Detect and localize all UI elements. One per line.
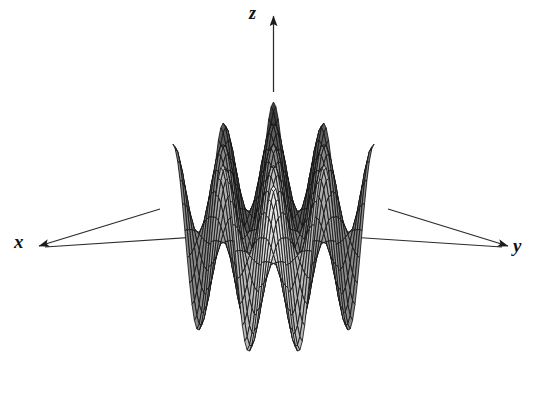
surface-mesh — [173, 102, 374, 351]
surface-plot-figure: x y z — [0, 0, 547, 415]
axis-label-x: x — [14, 232, 24, 251]
surface-plot-canvas — [0, 0, 547, 415]
axis-label-z: z — [249, 4, 256, 22]
axis-label-y: y — [513, 236, 521, 255]
